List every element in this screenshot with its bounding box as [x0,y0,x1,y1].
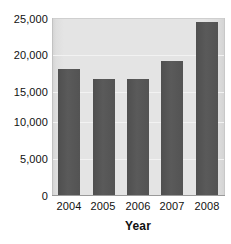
plot-left-border [52,18,53,196]
x-tick-label-2005: 2005 [86,200,120,213]
x-axis-title: Year [52,219,224,233]
x-axis-tick-labels: 2004 2005 2006 2007 2008 [52,200,224,216]
x-tick-label-2007: 2007 [155,200,189,213]
bar-2005 [93,79,115,196]
y-tick-label-0: 0 [0,191,48,202]
bar-2008 [196,22,218,196]
y-tick-label-25000: 25,000 [0,14,48,25]
y-tick-label-20000: 20,000 [0,50,48,61]
bar-2004 [58,69,80,196]
x-tick-label-2004: 2004 [52,200,86,213]
y-axis-tick-labels: 0 5,000 10,000 15,000 20,000 25,000 [0,0,48,244]
bar-2006 [127,79,149,196]
x-axis-line [52,195,225,196]
y-tick-label-5000: 5,000 [0,154,48,165]
bar-chart-figure: 0 5,000 10,000 15,000 20,000 25,000 2004… [0,0,231,244]
y-tick-label-10000: 10,000 [0,117,48,128]
x-tick-label-2006: 2006 [121,200,155,213]
y-tick-label-15000: 15,000 [0,87,48,98]
bars-layer [52,18,224,196]
plot-right-border [224,18,225,196]
plot-area [52,18,224,196]
plot-top-border [52,18,225,19]
bar-2007 [161,61,183,196]
x-tick-label-2008: 2008 [190,200,224,213]
